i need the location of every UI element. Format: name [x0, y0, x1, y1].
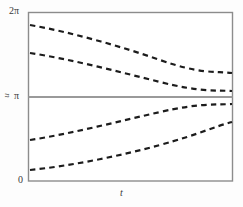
y-axis-label: u	[2, 89, 11, 103]
x-axis-label: t	[0, 188, 243, 198]
plot-area	[0, 0, 243, 207]
y-axis-tick-pi: π	[14, 91, 19, 101]
y-axis-tick-2pi: 2π	[9, 6, 19, 16]
y-axis-tick-zero: 0	[18, 175, 23, 185]
chart-figure: 2π π 0 u t	[0, 0, 243, 207]
